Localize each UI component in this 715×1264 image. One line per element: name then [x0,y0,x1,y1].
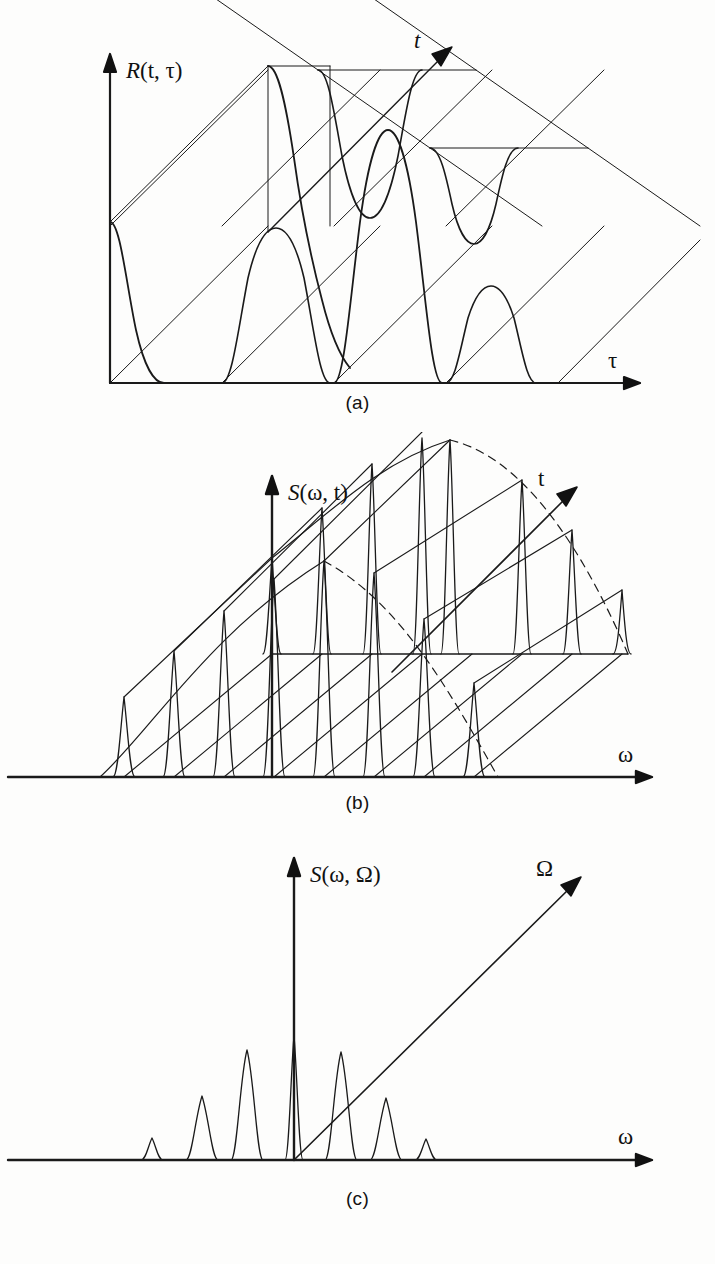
omega-capital-axis [294,877,581,1160]
panel-a-correlation: R(t, τ) t τ [0,0,715,440]
panel-a-caption: (a) [0,392,715,414]
t-rails [124,654,622,777]
tau-axis [110,377,640,389]
peak-minus-3 [141,1138,163,1160]
mid-humps [222,228,536,383]
slab-4 [430,148,700,244]
panel-a-svg: R(t, τ) t τ [0,0,715,440]
panel-b-spectrum: S(ω, t) t ω [0,432,715,832]
panel-b-vertical-axis-label: S(ω, t) [288,480,348,505]
front-envelope-solid [100,561,324,777]
peak-plus-3 [415,1139,437,1160]
back-left-slab [110,66,330,383]
panel-c-bifrequency: S(ω, Ω) Ω ω [0,828,715,1228]
panel-b-depth-axis-label: t [538,466,545,491]
peak-plus-2 [370,1098,402,1160]
panel-a-depth-axis-label: t [414,28,421,53]
spectral-peaks [141,1036,437,1160]
back-peaks [263,438,631,654]
panel-b-caption: (b) [0,792,715,814]
panel-c-vertical-axis-label: S(ω, Ω) [310,862,381,887]
figure-sheet: R(t, τ) t τ (a) [0,0,715,1264]
panel-a-horizontal-axis-label: τ [608,348,617,373]
panel-b-horizontal-axis-label: ω [618,742,633,767]
t-axis [268,47,452,232]
peak-minus-2 [186,1096,218,1160]
peak-plus-1 [325,1052,357,1160]
panel-c-depth-axis-label: Ω [536,856,553,881]
panel-c-svg: S(ω, Ω) Ω ω [0,828,715,1228]
peak-minus-1 [231,1050,263,1160]
front-envelope-dashed [324,561,498,777]
panel-b-svg: S(ω, t) t ω [0,432,715,832]
panel-a-vertical-axis-label: R(t, τ) [125,58,183,83]
panel-c-horizontal-axis-label: ω [618,1124,633,1149]
front-peaks [113,561,485,777]
omega-axis [8,1154,652,1166]
panel-c-caption: (c) [0,1188,715,1210]
slab-3 [318,70,588,218]
